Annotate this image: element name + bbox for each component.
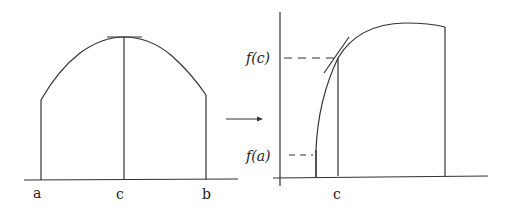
label-fc: f(c)	[245, 50, 270, 66]
right-graph	[273, 12, 488, 186]
arrow	[226, 117, 263, 122]
label-a: a	[33, 185, 41, 201]
left-graph	[24, 37, 238, 180]
right-curve	[316, 23, 445, 177]
label-c-right: c	[333, 186, 341, 202]
label-fa: f(a)	[245, 148, 270, 164]
right-x-axis	[273, 176, 488, 178]
figure: a c b f(c) f(a) c	[0, 0, 505, 209]
label-c-left: c	[116, 186, 124, 202]
label-b: b	[202, 186, 211, 202]
right-tangent	[324, 37, 349, 73]
